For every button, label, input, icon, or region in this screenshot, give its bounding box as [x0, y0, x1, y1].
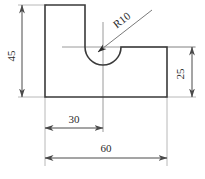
dimension-60: 60: [45, 142, 167, 158]
dim-60-label: 60: [101, 142, 113, 154]
dimension-30: 30: [45, 113, 103, 128]
dimension-25: 25: [174, 47, 192, 97]
dim-25-label: 25: [174, 68, 186, 80]
dim-45-label: 45: [5, 50, 17, 62]
drawing-svg: R10 45 25 30 60: [0, 0, 205, 179]
dimension-45: 45: [5, 5, 22, 97]
dim-30-label: 30: [69, 113, 81, 125]
part-profile-path: [45, 5, 167, 97]
radius-callout-r10: R10: [98, 9, 152, 52]
engineering-drawing-canvas: R10 45 25 30 60: [0, 0, 205, 179]
part-outline: [45, 5, 167, 97]
